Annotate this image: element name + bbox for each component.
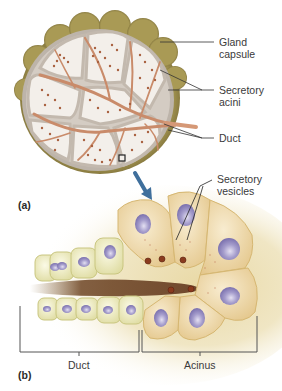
magnified-region-box xyxy=(119,155,125,161)
label-line: Duct xyxy=(219,132,241,144)
panel-label-a: (a) xyxy=(18,199,31,211)
label-secretory-acini: Secretory acini xyxy=(219,84,264,108)
label-line: acini xyxy=(219,96,264,108)
label-line: capsule xyxy=(219,48,255,60)
bracket-label-duct: Duct xyxy=(68,359,90,371)
panel-label-b: (b) xyxy=(18,369,31,381)
label-line: Secretory xyxy=(217,173,262,185)
label-line: vesicles xyxy=(217,185,262,197)
gland-cross-section xyxy=(14,10,196,174)
label-secretory-vesicles: Secretory vesicles xyxy=(217,173,262,197)
label-duct-a: Duct xyxy=(219,132,241,144)
label-line: Gland xyxy=(219,36,255,48)
label-gland-capsule: Gland capsule xyxy=(219,36,255,60)
label-line: Secretory xyxy=(219,84,264,96)
bracket-label-acinus: Acinus xyxy=(184,359,216,371)
